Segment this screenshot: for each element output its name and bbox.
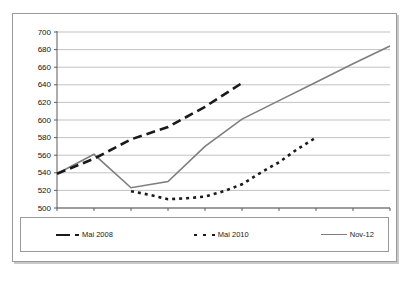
chart-frame: 500520540560580600620640660680700 200720… bbox=[12, 13, 397, 262]
gridlines-group bbox=[57, 32, 390, 208]
y-axis-tick-label: 540 bbox=[38, 168, 52, 177]
legend-swatch-dot3-icon bbox=[212, 234, 215, 236]
legend-label-mai-2010: Mai 2010 bbox=[218, 230, 249, 239]
y-axis-tick-label: 660 bbox=[38, 63, 52, 72]
legend-item-mai-2010[interactable]: Mai 2010 bbox=[191, 230, 249, 239]
legend-swatch-dot2-icon bbox=[203, 234, 206, 236]
y-axis-tick-label: 520 bbox=[38, 186, 52, 195]
legend-item-mai-2008[interactable]: Mai 2008 bbox=[56, 230, 113, 239]
y-axis-tick-label: 640 bbox=[38, 80, 52, 89]
y-axis-tick-label: 620 bbox=[38, 98, 52, 107]
legend-swatch-solid-icon bbox=[321, 234, 347, 235]
series-line-mai-2008 bbox=[57, 83, 242, 174]
legend-label-mai-2008: Mai 2008 bbox=[82, 230, 113, 239]
legend-swatch-dashed-icon bbox=[56, 234, 70, 236]
chart-legend: Mai 2008 Mai 2010 Nov-12 bbox=[20, 217, 389, 252]
chart-plot-container: 500520540560580600620640660680700 200720… bbox=[13, 14, 396, 214]
y-axis-tick-label: 500 bbox=[38, 204, 52, 213]
y-axis-tick-label: 700 bbox=[38, 28, 52, 37]
line-chart: 500520540560580600620640660680700 200720… bbox=[13, 14, 396, 214]
y-axis-tick-label: 560 bbox=[38, 151, 52, 160]
legend-label-nov-12: Nov-12 bbox=[350, 230, 374, 239]
series-line-mai-2010 bbox=[131, 138, 316, 200]
y-axis-labels-group: 500520540560580600620640660680700 bbox=[38, 28, 52, 213]
y-axis-tick-label: 580 bbox=[38, 133, 52, 142]
y-axis-tick-label: 600 bbox=[38, 116, 52, 125]
legend-swatch-dash-small-icon bbox=[75, 234, 79, 236]
legend-item-nov-12[interactable]: Nov-12 bbox=[321, 230, 374, 239]
y-axis-tick-label: 680 bbox=[38, 45, 52, 54]
legend-swatch-dot1-icon bbox=[194, 234, 197, 236]
